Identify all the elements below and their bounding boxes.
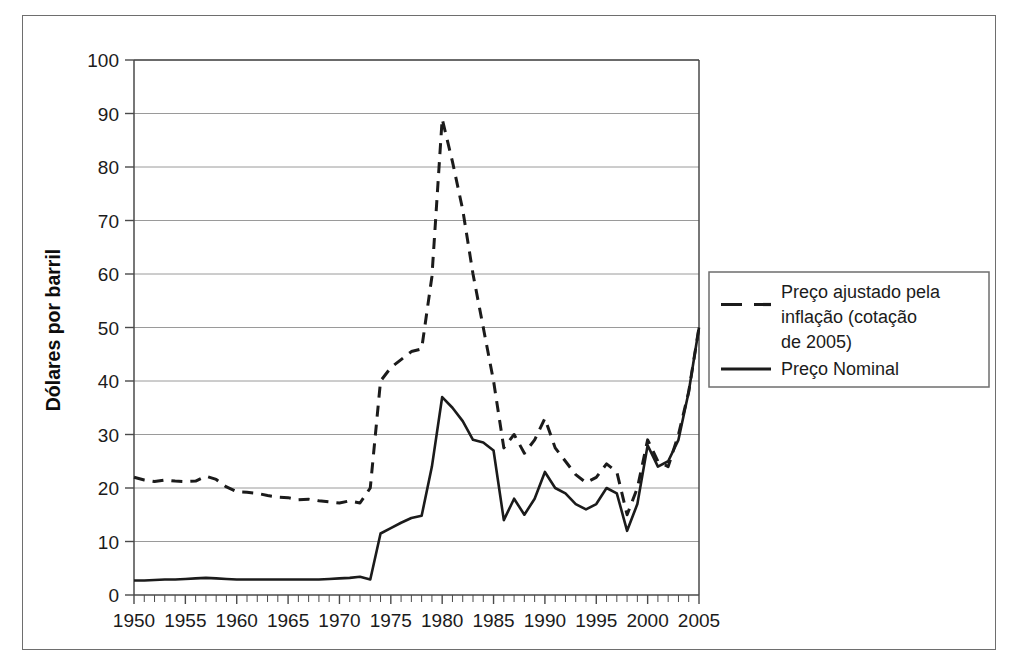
x-axis-tick-label: 1980 [421,610,463,631]
x-axis-tick-label: 1975 [370,610,412,631]
y-axis-tick-labels: 0102030405060708090100 [87,50,119,606]
y-axis-tick-label: 90 [98,104,119,125]
y-axis-tick-label: 60 [98,264,119,285]
y-axis-tick-label: 20 [98,478,119,499]
x-axis-tick-label: 1955 [164,610,206,631]
y-axis-ticks [125,60,134,595]
x-axis-tick-label: 1985 [472,610,514,631]
legend-label: Preço ajustado pela [781,282,941,302]
x-axis-tick-label: 1950 [113,610,155,631]
y-axis-tick-label: 30 [98,425,119,446]
y-axis-tick-label: 70 [98,211,119,232]
y-axis-tick-label: 50 [98,318,119,339]
legend-label: Preço Nominal [781,359,899,379]
x-axis-tick-label: 1990 [524,610,566,631]
series-line-inflation-adjusted [134,119,699,515]
y-axis-tick-label: 100 [87,50,119,71]
x-axis-minor-ticks [134,595,699,604]
x-axis-tick-label: 1965 [267,610,309,631]
x-axis-tick-label: 1970 [318,610,360,631]
legend-label: inflação (cotação [781,307,917,327]
legend-label: de 2005) [781,332,852,352]
x-axis-tick-label: 2005 [678,610,720,631]
series-line-nominal [134,328,699,581]
y-axis-tick-label: 10 [98,532,119,553]
x-axis-tick-labels: 1950195519601965197019751980198519901995… [113,610,720,631]
y-axis-tick-label: 40 [98,371,119,392]
x-axis-tick-label: 1960 [216,610,258,631]
oil-price-line-chart: 0102030405060708090100 19501955196019651… [0,0,1014,668]
y-grid-lines [134,60,699,542]
data-series-layer [134,119,699,581]
x-axis-tick-label: 2000 [626,610,668,631]
y-axis-tick-label: 0 [108,585,119,606]
y-axis-tick-label: 80 [98,157,119,178]
y-axis-title: Dólares por barril [42,249,64,412]
chart-legend: Preço ajustado pelainflação (cotaçãode 2… [709,272,989,387]
x-axis-tick-label: 1995 [575,610,617,631]
figure-root: 0102030405060708090100 19501955196019651… [0,0,1014,668]
